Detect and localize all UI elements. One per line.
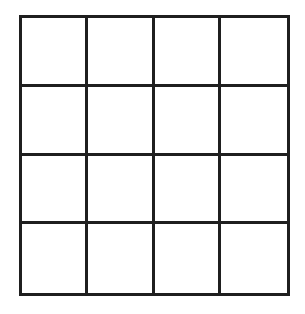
grid-cell-r4-c1[interactable] [22,224,88,293]
grid-cell-r4-c3[interactable] [155,224,221,293]
grid-cell-r3-c4[interactable] [221,156,287,225]
grid-cell-r1-c3[interactable] [155,18,221,87]
grid-cell-r3-c1[interactable] [22,156,88,225]
grid-cell-r2-c2[interactable] [88,87,154,156]
grid-cell-r3-c2[interactable] [88,156,154,225]
grid-cell-r2-c3[interactable] [155,87,221,156]
grid-cell-r1-c1[interactable] [22,18,88,87]
grid-cell-r4-c4[interactable] [221,224,287,293]
grid-cell-r3-c3[interactable] [155,156,221,225]
grid-cell-r1-c2[interactable] [88,18,154,87]
grid-cell-r4-c2[interactable] [88,224,154,293]
grid-cell-r2-c1[interactable] [22,87,88,156]
game-board-grid [19,15,290,296]
grid-cell-r2-c4[interactable] [221,87,287,156]
grid-cell-r1-c4[interactable] [221,18,287,87]
